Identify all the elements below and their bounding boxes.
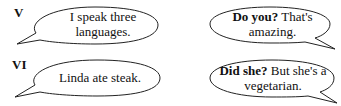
bubble-text-right-vi: Did she? But she's a vegetarian. bbox=[212, 63, 334, 93]
bubble-text-left-v: I speak three languages. bbox=[48, 9, 158, 39]
bubble-text-right-v: Do you? That's amazing. bbox=[215, 9, 330, 39]
bubble-text-left-vi: Linda ate steak. bbox=[40, 70, 160, 85]
